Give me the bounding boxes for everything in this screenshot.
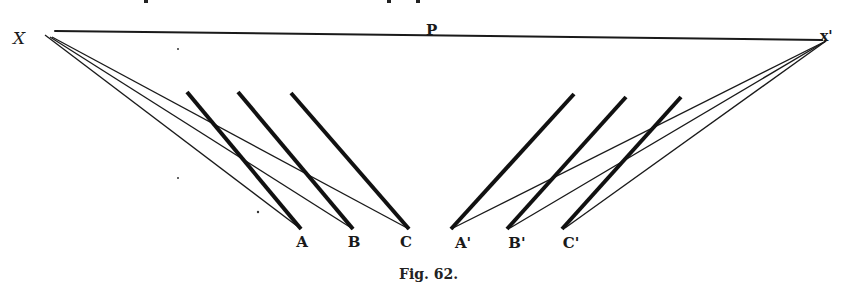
ray-x-prime-to-a-prime [451, 41, 826, 229]
segment-C-prime [562, 97, 681, 229]
label-x-prime: x' [820, 28, 833, 44]
label-b-prime: B' [508, 234, 525, 252]
perspective-diagram: X P x' ABCA'B'C' Fig. 62. [0, 0, 849, 293]
label-c-prime: C' [563, 234, 580, 252]
label-a-prime: A' [454, 234, 471, 252]
label-c: C [400, 233, 412, 251]
top-edge-text-fragments [144, 0, 420, 3]
ray-x-to-a [45, 35, 301, 229]
ray-x-prime-to-b-prime [510, 41, 826, 228]
bottom-labels: ABCA'B'C' [295, 233, 579, 252]
ray-x-to-b [50, 37, 353, 229]
ray-x-prime-to-c-prime [565, 41, 826, 228]
label-x: X [11, 28, 26, 48]
thin-rays [45, 35, 826, 229]
thick-segments [187, 92, 681, 229]
segment-C [291, 93, 409, 229]
label-p: P [426, 21, 437, 39]
ray-x-to-c [52, 37, 409, 229]
segment-B [238, 92, 353, 229]
horizon-line [55, 31, 822, 40]
segment-A-prime [451, 94, 574, 229]
label-b: B [348, 233, 361, 251]
segment-B-prime [507, 97, 626, 229]
figure-caption: Fig. 62. [399, 266, 458, 282]
segment-A [187, 92, 301, 229]
label-a: A [295, 233, 308, 251]
